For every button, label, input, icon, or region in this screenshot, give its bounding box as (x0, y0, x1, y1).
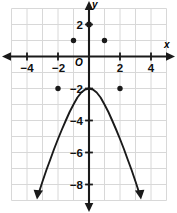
xtick-label-neg4: −4 (20, 62, 34, 74)
xtick-label-2: 2 (117, 62, 123, 74)
xtick-label-4: 4 (148, 62, 155, 74)
point-1-1 (102, 38, 107, 43)
point-0-2 (86, 22, 92, 28)
ytick-label-neg6: −6 (70, 147, 83, 159)
y-axis-label: y (92, 0, 98, 10)
coordinate-plane: −4 −2 2 4 2 −2 −4 −6 −8 (0, 0, 177, 213)
point-neg2-neg2 (55, 86, 60, 91)
ytick-label-neg2: −2 (70, 83, 83, 95)
origin-label: O (75, 58, 83, 68)
parabola-graph-figure: −4 −2 2 4 2 −2 −4 −6 −8 O x y (0, 0, 177, 213)
xtick-label-neg2: −2 (52, 62, 65, 74)
ytick-label-2: 2 (77, 19, 83, 31)
ytick-label-neg4: −4 (70, 115, 84, 127)
ytick-label-neg8: −8 (70, 179, 84, 191)
point-2-neg2 (117, 86, 122, 91)
x-axis-label: x (164, 40, 170, 50)
point-neg1-1 (71, 38, 76, 43)
